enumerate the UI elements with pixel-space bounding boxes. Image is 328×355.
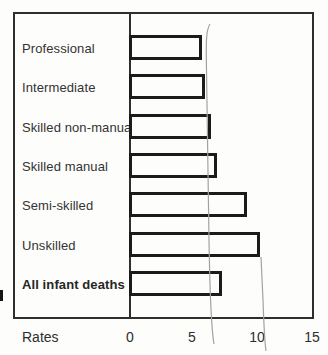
category-label: Professional xyxy=(22,40,95,55)
category-label: Unskilled xyxy=(22,237,76,252)
category-label: Skilled manual xyxy=(22,158,108,173)
bar xyxy=(129,153,217,178)
category-label: Intermediate xyxy=(22,79,95,94)
bar xyxy=(129,192,247,217)
x-tick-label: 5 xyxy=(188,329,196,345)
bar xyxy=(129,35,202,60)
category-label: Semi-skilled xyxy=(22,197,93,212)
x-axis-title: Rates xyxy=(22,329,59,345)
x-tick-label: 10 xyxy=(249,329,265,345)
category-label: Skilled non-manual xyxy=(22,119,134,134)
x-tick-label: 15 xyxy=(304,329,320,345)
scan-artifact xyxy=(0,290,3,301)
bar xyxy=(129,271,222,296)
figure-canvas: Rates ProfessionalIntermediateSkilled no… xyxy=(0,0,328,355)
x-tick-label: 0 xyxy=(126,329,134,345)
category-label: All infant deaths xyxy=(22,276,125,291)
bar xyxy=(129,114,211,139)
bar xyxy=(129,74,205,99)
bar xyxy=(129,232,260,257)
